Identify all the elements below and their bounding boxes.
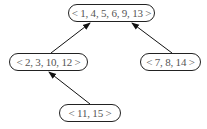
node-right: < 7, 8, 14 > [140, 53, 201, 71]
edge-right-to-root-arrow [132, 23, 172, 53]
node-root: < 1, 4, 5, 6, 9, 13 > [68, 4, 155, 22]
edge-bottom-to-left-arrow [49, 72, 90, 104]
edge-left-to-root-arrow [51, 23, 90, 53]
node-left-label: < 2, 3, 10, 12 > [16, 56, 80, 68]
node-left: < 2, 3, 10, 12 > [9, 53, 88, 71]
node-root-label: < 1, 4, 5, 6, 9, 13 > [72, 7, 152, 19]
node-bottom: < 11, 15 > [59, 104, 121, 122]
node-bottom-label: < 11, 15 > [69, 107, 112, 119]
node-right-label: < 7, 8, 14 > [146, 56, 195, 68]
